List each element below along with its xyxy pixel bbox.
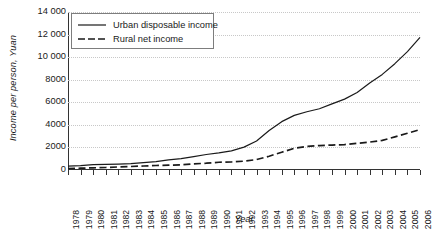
x-tick-mark (118, 170, 119, 175)
x-tick-mark (93, 170, 94, 175)
y-tick-label: 0 (24, 165, 66, 174)
x-tick-mark (219, 170, 220, 175)
income-line-chart: Income per person, Yuan 14 00012 00010 0… (0, 0, 436, 238)
x-tick-mark (231, 170, 232, 175)
x-tick-mark (395, 170, 396, 175)
legend-item-urban: Urban disposable income (77, 18, 208, 32)
y-axis-title: Income per person, Yuan (2, 0, 24, 175)
x-tick-mark (194, 170, 195, 175)
x-tick-mark (307, 170, 308, 175)
x-tick-mark (407, 170, 408, 175)
x-tick-mark (206, 170, 207, 175)
x-tick-mark (257, 170, 258, 175)
legend-label-rural: Rural net income (113, 34, 183, 44)
y-tick-label: 10 000 (24, 52, 66, 61)
y-tick-label: 14 000 (24, 7, 66, 16)
x-tick-mark (81, 170, 82, 175)
plot-area: Urban disposable income Rural net income (68, 12, 420, 170)
x-tick-mark (345, 170, 346, 175)
x-tick-mark (106, 170, 107, 175)
y-tick-label: 8000 (24, 75, 66, 84)
y-tick-label: 2000 (24, 142, 66, 151)
y-tick-label: 4000 (24, 120, 66, 129)
x-axis-tick-labels: 1978197919801981198219831984198519861987… (68, 176, 420, 212)
x-tick-mark (319, 170, 320, 175)
legend-label-urban: Urban disposable income (113, 20, 218, 30)
x-tick-mark (382, 170, 383, 175)
x-tick-label: 2006 (424, 210, 433, 229)
x-tick-mark (357, 170, 358, 175)
x-tick-mark (181, 170, 182, 175)
y-tick-label: 6000 (24, 97, 66, 106)
x-tick-mark (269, 170, 270, 175)
x-tick-mark (244, 170, 245, 175)
x-tick-mark (420, 170, 421, 175)
x-tick-mark (131, 170, 132, 175)
x-tick-mark (332, 170, 333, 175)
legend-solid-line-icon (77, 20, 107, 30)
x-tick-mark (143, 170, 144, 175)
x-tick-mark (169, 170, 170, 175)
x-tick-mark (156, 170, 157, 175)
y-axis-title-text: Income per person, Yuan (8, 34, 18, 140)
legend-dashed-line-icon (77, 34, 107, 44)
y-axis-tick-labels: 14 00012 00010 00080006000400020000 (22, 0, 66, 238)
x-axis-title: Year (68, 214, 420, 224)
x-tick-mark (68, 170, 69, 175)
series-line (68, 37, 420, 166)
x-tick-mark (370, 170, 371, 175)
x-tick-mark (282, 170, 283, 175)
y-tick-label: 12 000 (24, 30, 66, 39)
series-line (68, 130, 420, 169)
x-tick-mark (294, 170, 295, 175)
legend-item-rural: Rural net income (77, 32, 208, 46)
legend: Urban disposable income Rural net income (71, 13, 214, 49)
